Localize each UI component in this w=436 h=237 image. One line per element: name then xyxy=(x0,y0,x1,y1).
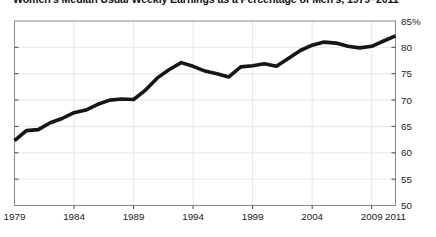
x-axis-label: 1979 xyxy=(4,211,26,222)
y-axis-label: 50 xyxy=(401,200,412,211)
x-axis-label: 1984 xyxy=(63,211,85,222)
chart-screenshot: Women's Median Usual Weekly Earnings as … xyxy=(0,0,436,237)
x-axis-label: 2009 xyxy=(361,211,383,222)
x-axis-label: 1999 xyxy=(242,211,264,222)
y-axis-label: 65 xyxy=(401,121,412,132)
x-axis-label: 1989 xyxy=(123,211,145,222)
y-axis-label: 70 xyxy=(401,95,412,106)
y-axis-label: 75 xyxy=(401,68,412,79)
y-axis-label: 80 xyxy=(401,42,412,53)
y-axis-label: 85% xyxy=(401,16,421,27)
y-axis-label: 55 xyxy=(401,174,412,185)
x-axis-label: 2011 xyxy=(385,211,406,222)
earnings-line-chart: 85%8075706560555019791984198919941999200… xyxy=(0,0,436,237)
data-line xyxy=(15,36,396,141)
y-axis-label: 60 xyxy=(401,147,412,158)
x-axis-label: 1994 xyxy=(182,211,204,222)
x-axis-label: 2004 xyxy=(301,211,323,222)
